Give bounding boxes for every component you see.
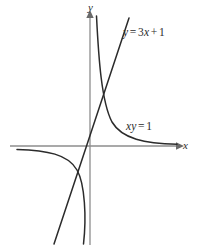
graph-canvas xyxy=(0,0,214,245)
line-eq-plus: + xyxy=(149,26,159,38)
hyperbola-equation-label: xy=1 xyxy=(126,121,152,133)
hyperbola-eq-rhs: 1 xyxy=(146,120,152,132)
hyperbola-eq-equals: = xyxy=(137,120,147,132)
line-y-equals-3x-plus-1 xyxy=(54,18,129,244)
page-edge-bleed xyxy=(198,0,214,245)
line-equation-label: y=3x+1 xyxy=(123,27,165,39)
hyperbola-lower-left-branch xyxy=(17,150,85,245)
x-axis-label: x xyxy=(183,140,188,151)
hyperbola-eq-lhs: xy xyxy=(126,120,137,132)
coordinate-graph-figure: y x y=3x+1 xy=1 xyxy=(0,0,214,245)
line-eq-equals: = xyxy=(128,26,138,38)
y-axis-label: y xyxy=(88,2,93,13)
line-eq-constant: 1 xyxy=(159,26,165,38)
